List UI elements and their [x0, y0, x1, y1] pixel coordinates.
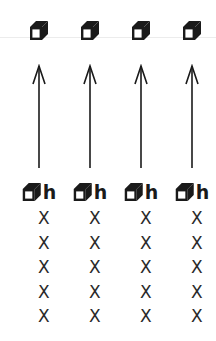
h-label: h — [43, 182, 57, 202]
x-mark: X — [38, 255, 50, 280]
arrow-up-icon — [82, 64, 98, 168]
cube-icon — [22, 182, 42, 202]
x-mark: X — [38, 280, 50, 305]
x-mark: X — [38, 206, 50, 231]
x-mark: X — [191, 231, 203, 256]
x-marks: X X X X X — [140, 206, 152, 329]
x-mark: X — [140, 304, 152, 329]
column-1: h X X X X X — [14, 0, 64, 341]
h-label: h — [94, 182, 108, 202]
x-mark: X — [89, 255, 101, 280]
x-mark: X — [89, 231, 101, 256]
x-marks: X X X X X — [89, 206, 101, 329]
arrow-up-icon — [133, 64, 149, 168]
column-2: h X X X X X — [65, 0, 115, 341]
cube-icon — [29, 19, 49, 41]
x-mark: X — [191, 280, 203, 305]
x-mark: X — [191, 255, 203, 280]
column-4: h X X X X X — [167, 0, 216, 341]
h-label: h — [145, 182, 159, 202]
cube-h-label: h — [73, 178, 108, 202]
x-mark: X — [38, 304, 50, 329]
x-mark: X — [140, 255, 152, 280]
arrow-up-icon — [31, 64, 47, 168]
cube-icon — [124, 182, 144, 202]
cube-icon — [73, 182, 93, 202]
x-mark: X — [89, 206, 101, 231]
cube-icon — [182, 19, 202, 41]
h-label: h — [196, 182, 210, 202]
x-mark: X — [38, 231, 50, 256]
x-marks: X X X X X — [191, 206, 203, 329]
x-mark: X — [140, 280, 152, 305]
x-mark: X — [89, 280, 101, 305]
x-marks: X X X X X — [38, 206, 50, 329]
x-mark: X — [140, 206, 152, 231]
x-mark: X — [140, 231, 152, 256]
cube-h-label: h — [124, 178, 159, 202]
x-mark: X — [89, 304, 101, 329]
cube-h-label: h — [22, 178, 57, 202]
arrow-up-icon — [184, 64, 200, 168]
cube-icon — [80, 19, 100, 41]
column-3: h X X X X X — [116, 0, 166, 341]
x-mark: X — [191, 304, 203, 329]
cube-icon — [175, 182, 195, 202]
cube-icon — [131, 19, 151, 41]
cube-h-label: h — [175, 178, 210, 202]
x-mark: X — [191, 206, 203, 231]
